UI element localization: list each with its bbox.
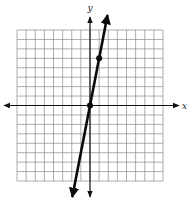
data-point	[96, 55, 102, 61]
data-point	[87, 103, 93, 109]
coordinate-plane-chart: x y	[0, 0, 193, 202]
axes: x y	[4, 3, 187, 197]
y-axis-label: y	[86, 3, 93, 13]
x-axis-label: x	[182, 101, 187, 111]
